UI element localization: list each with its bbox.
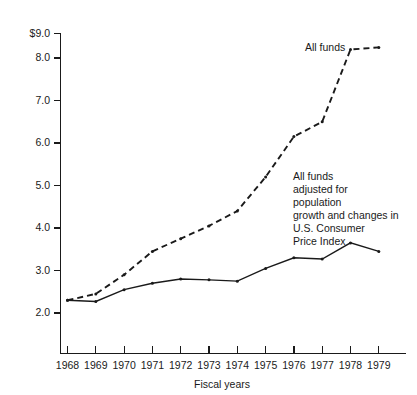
x-tick-label: 1972 <box>169 359 193 371</box>
annotation-adjusted-line-2: adjusted for <box>293 183 348 195</box>
line-chart: $9.0 8.0 7.0 6.0 5.0 4.0 3.0 2.0 1968 19… <box>0 0 417 395</box>
x-axis: 1968 1969 1970 1971 1972 1973 1974 1975 … <box>56 346 391 371</box>
data-point <box>94 292 97 295</box>
y-tick-label: 4.0 <box>35 221 50 233</box>
annotation-all-funds: All funds <box>305 41 345 53</box>
x-axis-title: Fiscal years <box>194 378 250 390</box>
x-tick-label: 1971 <box>141 359 165 371</box>
data-point <box>208 278 211 281</box>
x-tick-label: 1969 <box>84 359 108 371</box>
annotation-adjusted-line-1: All funds <box>293 170 333 182</box>
series-all-funds-adjusted <box>68 243 379 302</box>
data-point <box>179 278 182 281</box>
data-point <box>264 267 267 270</box>
data-point <box>292 135 295 138</box>
data-point <box>377 46 380 49</box>
data-point <box>264 176 267 179</box>
data-point <box>321 120 324 123</box>
data-point <box>236 280 239 283</box>
y-tick-label: $9.0 <box>30 27 51 39</box>
data-point <box>208 224 211 227</box>
annotation-adjusted-line-4: growth and changes in <box>293 209 399 221</box>
y-tick-label: 8.0 <box>35 51 50 63</box>
data-point <box>292 256 295 259</box>
data-point <box>123 273 126 276</box>
chart-container: $9.0 8.0 7.0 6.0 5.0 4.0 3.0 2.0 1968 19… <box>0 0 417 395</box>
y-tick-label: 3.0 <box>35 264 50 276</box>
data-point <box>66 299 69 302</box>
x-tick-label: 1973 <box>197 359 221 371</box>
chart-axes <box>61 34 406 354</box>
x-tick-label: 1977 <box>311 359 335 371</box>
data-point <box>151 250 154 253</box>
x-tick-label: 1976 <box>282 359 306 371</box>
y-tick-label: 7.0 <box>35 94 50 106</box>
data-point <box>349 48 352 51</box>
annotation-adjusted-line-5: U.S. Consumer <box>293 222 365 234</box>
annotation-adjusted-line-6: Price Index <box>293 235 346 247</box>
x-tick-label: 1978 <box>339 359 363 371</box>
y-tick-label: 6.0 <box>35 136 50 148</box>
data-point <box>123 288 126 291</box>
x-tick-label: 1970 <box>112 359 136 371</box>
data-point <box>236 210 239 213</box>
y-tick-label: 5.0 <box>35 179 50 191</box>
data-point <box>321 258 324 261</box>
annotation-adjusted-line-3: population <box>293 196 342 208</box>
y-tick-label: 2.0 <box>35 306 50 318</box>
data-point <box>94 300 97 303</box>
x-tick-label: 1974 <box>226 359 250 371</box>
x-tick-label: 1979 <box>367 359 391 371</box>
data-point <box>179 237 182 240</box>
annotation-adjusted: All funds adjusted for population growth… <box>293 170 399 247</box>
x-tick-label: 1975 <box>254 359 278 371</box>
data-point <box>349 241 352 244</box>
y-axis: $9.0 8.0 7.0 6.0 5.0 4.0 3.0 2.0 <box>30 27 61 319</box>
data-point <box>151 282 154 285</box>
annotation-all-funds-label: All funds <box>305 41 345 53</box>
x-tick-label: 1968 <box>56 359 80 371</box>
data-point <box>377 250 380 253</box>
